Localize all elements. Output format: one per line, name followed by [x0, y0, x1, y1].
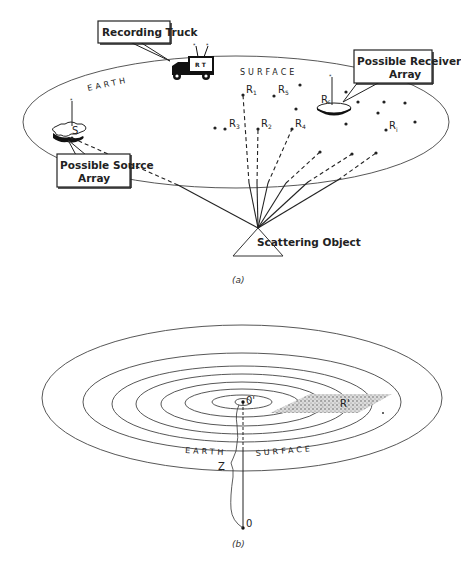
receiver-region: [270, 394, 392, 413]
receiver-points: [213, 83, 416, 155]
source-point: [71, 137, 74, 140]
receiver-array-callout-line1: Possible Receiver: [357, 55, 461, 67]
source-label: S: [72, 125, 78, 136]
receiver-labels: R 1 R 2 R 3 R 4 R 5 R 6 R i: [229, 84, 398, 133]
figure-b: R' 0' 0 Z EARTH SURFACE (b): [42, 325, 442, 549]
surface-label: SURFACE: [240, 68, 297, 77]
receiver-r3-sub: 3: [236, 123, 240, 130]
receiver-r1-label: R: [246, 84, 253, 95]
earth-label: EARTH: [87, 76, 129, 93]
depth-z-label: Z: [218, 461, 225, 472]
truck-sign: R T: [195, 61, 207, 68]
receiver-r5-sub: 5: [285, 89, 289, 96]
recording-truck-callout-text: Recording Truck: [102, 26, 198, 38]
surface-origin-point: [241, 400, 244, 403]
depth-brace: [231, 405, 243, 528]
figure-b-caption: (b): [232, 539, 245, 549]
surface-origin-label: 0': [246, 395, 255, 406]
surface-label-b: SURFACE: [255, 444, 313, 458]
scattering-object-label: Scattering Object: [257, 236, 361, 248]
earth-label-b: EARTH: [185, 446, 227, 457]
receiver-r2-sub: 2: [268, 123, 272, 130]
depth-origin-label: 0: [246, 518, 252, 529]
source-array-callout-line2: Array: [78, 172, 110, 184]
receiver-array-callout-line2: Array: [389, 68, 421, 80]
diagram-canvas: EARTH SURFACE Scattering Object: [0, 0, 461, 568]
receiver-ri-sub: i: [396, 126, 398, 133]
receiver-r4-sub: 4: [302, 123, 306, 130]
receiver-r3-label: R: [229, 118, 236, 129]
svg-text:*: *: [70, 97, 73, 103]
svg-text:*: *: [193, 42, 196, 48]
figure-a-caption: (a): [232, 275, 245, 285]
receiver-r5-label: R: [278, 84, 285, 95]
recording-truck-icon: R T * *: [172, 42, 214, 80]
receiver-r4-label: R: [295, 118, 302, 129]
receiver-r2-label: R: [261, 118, 268, 129]
receiver-r1-sub: 1: [253, 89, 257, 96]
svg-text:*: *: [206, 42, 209, 48]
source-array-icon: * S: [52, 97, 85, 143]
source-array-callout-line1: Possible Source: [60, 159, 154, 171]
receiver-array-callout: Possible Receiver Array: [343, 50, 461, 102]
figure-a: EARTH SURFACE Scattering Object: [23, 21, 461, 285]
receiver-ri-label: R: [389, 120, 396, 131]
recording-truck-callout: Recording Truck: [98, 21, 198, 61]
receiver-label: R': [340, 398, 350, 409]
